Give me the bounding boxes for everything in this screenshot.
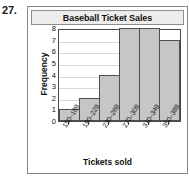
y-axis-tick-label: 4: [45, 72, 56, 80]
y-axis-tick-label: 8: [45, 25, 56, 33]
chart-panel: Baseball Ticket Sales Frequency 01234567…: [27, 6, 188, 174]
problem-number: 27.: [2, 4, 17, 16]
y-axis-tick-label: 6: [45, 49, 56, 57]
y-axis-tick-labels: 012345678: [45, 29, 56, 122]
y-axis-tick-label: 3: [45, 83, 56, 91]
chart-title: Baseball Ticket Sales: [63, 13, 152, 23]
chart-title-band: Baseball Ticket Sales: [31, 10, 184, 25]
y-axis-tick-label: 5: [45, 60, 56, 68]
y-axis-tick-label: 1: [45, 107, 56, 115]
x-axis-title: Tickets sold: [28, 157, 187, 167]
y-axis-tick-label: 0: [45, 118, 56, 126]
figure-container: 27. Baseball Ticket Sales Frequency 0123…: [0, 0, 190, 176]
x-axis-tick-labels: 150–189190–229230–269270–309310–349350–3…: [58, 125, 184, 161]
y-axis-tick-label: 2: [45, 95, 56, 103]
y-axis-tick-label: 7: [45, 37, 56, 45]
